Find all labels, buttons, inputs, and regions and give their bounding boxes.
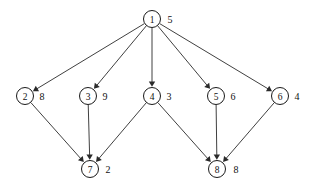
node-label-6: 6	[278, 92, 283, 102]
node-label-5: 5	[214, 92, 219, 102]
arrow-head-icon	[86, 154, 92, 159]
node-weight-7: 2	[106, 164, 111, 175]
edge-1-to-6	[160, 24, 272, 92]
edge-4-to-7	[96, 103, 146, 162]
node-weight-1: 5	[168, 14, 173, 25]
node-weight-2: 8	[40, 91, 45, 102]
edge-3-to-7	[86, 105, 92, 160]
node-8[interactable]: 88	[209, 161, 239, 178]
node-weight-6: 4	[295, 91, 300, 102]
node-label-3: 3	[86, 92, 91, 102]
arrow-head-icon	[204, 83, 210, 89]
node-5[interactable]: 56	[208, 88, 236, 105]
directed-graph-diagram: 1528394356647288	[0, 0, 314, 189]
node-label-2: 2	[23, 92, 28, 102]
node-weight-4: 3	[167, 91, 172, 102]
node-7[interactable]: 72	[82, 161, 111, 178]
node-weight-8: 8	[234, 164, 239, 175]
node-weight-5: 6	[231, 91, 236, 102]
edge-1-to-3	[94, 26, 146, 89]
node-label-7: 7	[88, 165, 93, 175]
arrow-head-icon	[149, 82, 155, 87]
arrow-head-icon	[214, 154, 220, 159]
edge-4-to-8	[158, 103, 211, 162]
node-4[interactable]: 43	[144, 88, 172, 105]
edge-6-to-8	[223, 103, 274, 162]
node-weight-3: 9	[103, 91, 108, 102]
node-label-8: 8	[215, 165, 220, 175]
edge-1-to-2	[33, 24, 144, 92]
node-3[interactable]: 39	[80, 88, 108, 105]
node-label-4: 4	[150, 92, 155, 102]
edge-1-to-4	[149, 28, 155, 87]
edge-2-to-7	[31, 103, 84, 162]
node-2[interactable]: 28	[17, 88, 45, 105]
edge-1-to-5	[158, 26, 210, 89]
node-label-1: 1	[150, 15, 155, 25]
nodes-layer: 1528394356647288	[17, 11, 300, 178]
edge-5-to-8	[214, 105, 220, 160]
node-1[interactable]: 15	[144, 11, 173, 28]
node-6[interactable]: 64	[272, 88, 300, 105]
arrow-head-icon	[94, 83, 100, 89]
